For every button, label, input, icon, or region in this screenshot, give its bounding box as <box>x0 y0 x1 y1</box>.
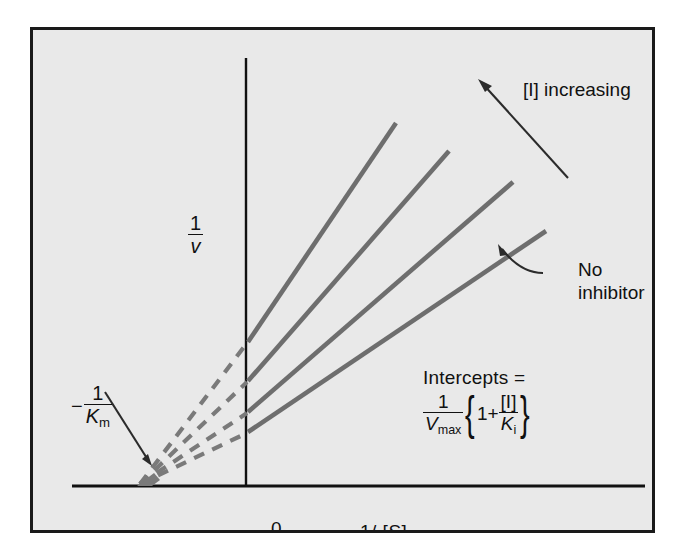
km-denominator: Km <box>84 405 112 430</box>
dashed-line-i-high <box>140 343 247 484</box>
km-intercept-label: − 1 Km <box>71 382 112 431</box>
vmax-v: V <box>425 413 438 434</box>
dashed-line-i-medium <box>140 382 247 484</box>
i-over-ki-fraction: [I] Ki <box>499 391 519 437</box>
i-increasing-label: [I] increasing <box>523 80 631 100</box>
x-axis-label: 1/ [S] <box>360 522 407 533</box>
origin-label: 0 <box>271 519 282 533</box>
km-denominator-sub: m <box>99 415 110 430</box>
dashed-line-i-low <box>140 413 247 484</box>
i-over-ki-numerator: [I] <box>499 391 519 413</box>
km-denominator-k: K <box>86 405 99 427</box>
km-arrow <box>105 392 152 466</box>
dashed-extrapolations-group <box>140 343 247 484</box>
no-inhibitor-line-2: inhibitor <box>578 282 645 303</box>
figure-root: 1 v 0 1/ [S] − 1 Km [I] increasing No in… <box>0 0 682 559</box>
convergence-wedge <box>137 473 160 486</box>
brace-close-icon: } <box>520 396 530 431</box>
one-over-vmax-denominator: Vmax <box>423 413 463 437</box>
vmax-sub: max <box>438 423 462 437</box>
i-over-ki-denominator: Ki <box>499 413 519 437</box>
y-axis-fraction: 1 v <box>188 212 203 258</box>
intercepts-expression: 1 Vmax {1+ [I] Ki } <box>423 391 532 437</box>
one-over-vmax-numerator: 1 <box>423 391 463 413</box>
intercepts-heading: Intercepts = <box>423 368 532 388</box>
brace-open-icon: { <box>465 396 475 431</box>
y-axis-denominator: v <box>188 235 203 257</box>
one-plus-term: 1+ <box>477 404 499 424</box>
intercepts-equation: Intercepts = 1 Vmax {1+ [I] Ki } <box>423 368 532 437</box>
y-axis-numerator: 1 <box>188 212 203 235</box>
plot-frame: 1 v 0 1/ [S] − 1 Km [I] increasing No in… <box>30 27 655 533</box>
km-numerator: 1 <box>84 382 112 405</box>
no-inhibitor-label: No inhibitor <box>578 258 645 304</box>
km-minus-sign: − <box>71 396 84 417</box>
ki-sub: i <box>513 423 516 437</box>
ki-k: K <box>501 413 514 434</box>
km-fraction: 1 Km <box>84 382 112 431</box>
plot-drawing-area <box>33 30 652 530</box>
line-i-high <box>248 123 396 342</box>
one-over-vmax-fraction: 1 Vmax <box>423 391 463 437</box>
axes-group <box>72 58 645 486</box>
y-axis-label: 1 v <box>188 212 203 258</box>
no-inhibitor-line-1: No <box>578 259 602 280</box>
